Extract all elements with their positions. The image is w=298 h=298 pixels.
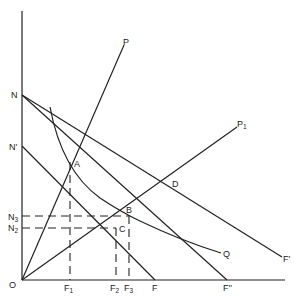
label-p1: P1 (237, 119, 247, 130)
label-n: N (11, 90, 18, 100)
line-n-fdoubleprime (22, 95, 227, 280)
label-b: B (126, 205, 132, 215)
label-f-prime: F' (283, 254, 290, 264)
label-d: D (172, 179, 179, 189)
label-a: A (74, 159, 80, 169)
label-n2: N2 (8, 223, 19, 234)
label-f2: F2 (110, 283, 120, 294)
label-f3: F3 (124, 283, 134, 294)
economic-diagram: O N N' N3 N2 F1 F2 F3 F F'' F' P P1 Q A … (0, 0, 298, 298)
label-n-prime: N' (9, 142, 17, 152)
ray-op (22, 45, 124, 280)
label-n3: N3 (8, 212, 19, 223)
label-f-double-prime: F'' (223, 283, 232, 293)
label-q: Q (223, 249, 230, 259)
label-o: O (9, 280, 16, 290)
label-p: P (123, 37, 129, 47)
label-f: F (152, 283, 158, 293)
label-f1: F1 (64, 283, 74, 294)
label-c: C (119, 224, 126, 234)
